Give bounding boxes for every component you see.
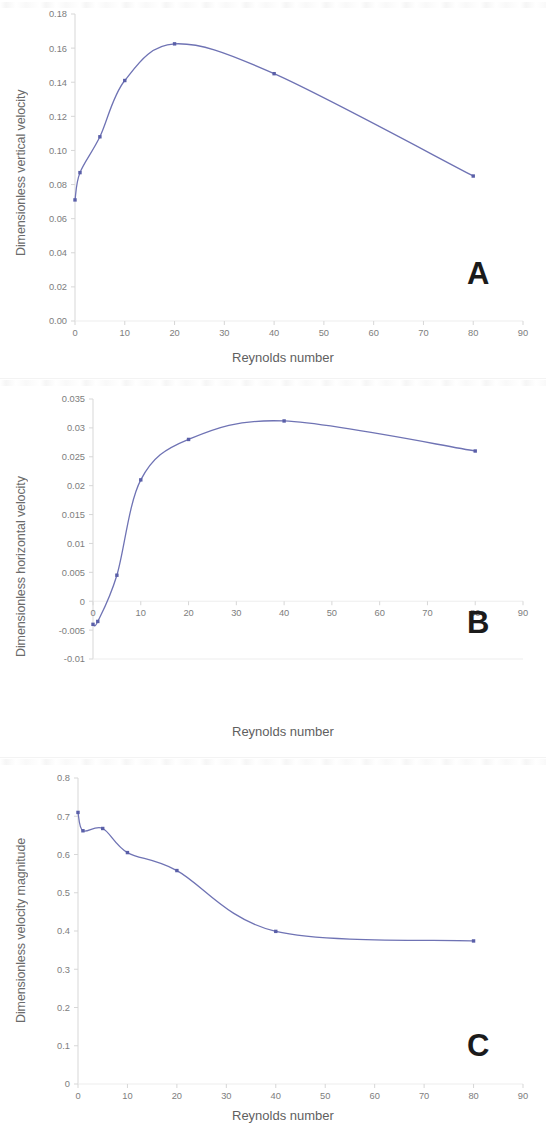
svg-text:10: 10 [136, 608, 146, 618]
svg-text:10: 10 [120, 328, 130, 338]
x-axis-label-a: Reynolds number [232, 350, 334, 365]
svg-text:30: 30 [221, 1091, 231, 1101]
svg-text:0.1: 0.1 [57, 1041, 70, 1051]
svg-text:40: 40 [269, 328, 279, 338]
svg-text:0.8: 0.8 [57, 773, 70, 783]
chart-panel-c: 00.10.20.30.40.50.60.70.8010203040506070… [0, 758, 546, 1137]
x-axis-label-b: Reynolds number [232, 724, 334, 739]
svg-text:50: 50 [319, 328, 329, 338]
svg-text:0: 0 [75, 1091, 80, 1101]
svg-text:-0.005: -0.005 [59, 626, 85, 636]
svg-text:0.005: 0.005 [62, 568, 85, 578]
svg-text:0.14: 0.14 [49, 78, 67, 88]
svg-text:70: 70 [422, 608, 432, 618]
svg-text:90: 90 [518, 608, 528, 618]
svg-text:0.015: 0.015 [62, 510, 85, 520]
svg-text:60: 60 [369, 1091, 379, 1101]
svg-text:0.12: 0.12 [49, 112, 67, 122]
svg-text:0.7: 0.7 [57, 812, 70, 822]
x-axis-label-c: Reynolds number [232, 1108, 334, 1123]
svg-text:80: 80 [468, 1091, 478, 1101]
plot-area-b: -0.01-0.00500.0050.010.0150.020.0250.030… [0, 379, 546, 758]
panel-letter-b: B [467, 607, 489, 638]
svg-text:50: 50 [320, 1091, 330, 1101]
chart-panel-b: -0.01-0.00500.0050.010.0150.020.0250.030… [0, 379, 546, 758]
svg-text:20: 20 [172, 1091, 182, 1101]
plot-area-a: 0.000.020.040.060.080.100.120.140.160.18… [0, 0, 546, 379]
svg-text:80: 80 [468, 328, 478, 338]
svg-text:40: 40 [279, 608, 289, 618]
svg-text:20: 20 [183, 608, 193, 618]
svg-text:20: 20 [169, 328, 179, 338]
svg-text:0.02: 0.02 [49, 282, 67, 292]
svg-text:0.025: 0.025 [62, 452, 85, 462]
svg-text:0.06: 0.06 [49, 214, 67, 224]
svg-text:50: 50 [327, 608, 337, 618]
svg-text:30: 30 [231, 608, 241, 618]
svg-text:0.03: 0.03 [67, 423, 85, 433]
figure-three-panel-chart: 0.000.020.040.060.080.100.120.140.160.18… [0, 0, 546, 1139]
svg-text:0.16: 0.16 [49, 44, 67, 54]
plot-area-c: 00.10.20.30.40.50.60.70.8010203040506070… [0, 758, 546, 1137]
svg-text:0.2: 0.2 [57, 1003, 70, 1013]
svg-text:0.035: 0.035 [62, 394, 85, 404]
svg-text:90: 90 [518, 328, 528, 338]
svg-text:0.08: 0.08 [49, 180, 67, 190]
svg-text:10: 10 [122, 1091, 132, 1101]
svg-text:0.04: 0.04 [49, 248, 67, 258]
svg-text:30: 30 [219, 328, 229, 338]
y-axis-label-a: Dimensionless vertical velocity [14, 28, 28, 318]
svg-text:70: 70 [418, 328, 428, 338]
svg-text:0: 0 [65, 1079, 70, 1089]
svg-text:0.00: 0.00 [49, 316, 67, 326]
svg-text:0.10: 0.10 [49, 146, 67, 156]
svg-text:-0.01: -0.01 [64, 654, 85, 664]
svg-text:60: 60 [368, 328, 378, 338]
panel-letter-c: C [467, 1030, 489, 1061]
svg-text:0.01: 0.01 [67, 539, 85, 549]
svg-text:0.02: 0.02 [67, 481, 85, 491]
svg-text:0.4: 0.4 [57, 926, 70, 936]
y-axis-label-c: Dimensionless velocity magnitude [14, 780, 28, 1080]
chart-panel-a: 0.000.020.040.060.080.100.120.140.160.18… [0, 0, 546, 379]
svg-text:0: 0 [80, 597, 85, 607]
svg-text:0.6: 0.6 [57, 850, 70, 860]
svg-text:40: 40 [271, 1091, 281, 1101]
panel-letter-a: A [467, 258, 489, 289]
svg-text:70: 70 [419, 1091, 429, 1101]
svg-text:0.3: 0.3 [57, 965, 70, 975]
svg-text:60: 60 [374, 608, 384, 618]
svg-text:0.18: 0.18 [49, 9, 67, 19]
svg-text:0: 0 [72, 328, 77, 338]
svg-text:0: 0 [90, 608, 95, 618]
svg-text:0.5: 0.5 [57, 888, 70, 898]
svg-text:90: 90 [518, 1091, 528, 1101]
y-axis-label-b: Dimensionless horizontal velocity [14, 417, 28, 717]
